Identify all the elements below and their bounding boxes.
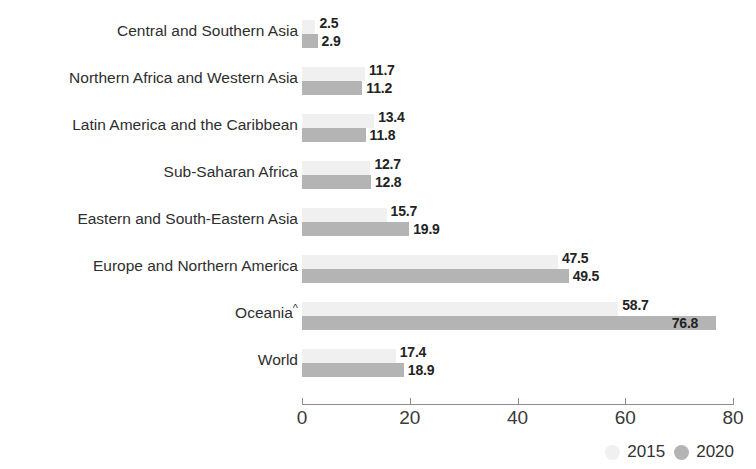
clipped-title-strip xyxy=(0,0,756,8)
value-label-2015: 17.4 xyxy=(400,344,426,360)
bar-2020 xyxy=(302,222,409,236)
x-axis-tick-label: 60 xyxy=(615,407,636,429)
bar-2020 xyxy=(302,128,366,142)
category-label: World xyxy=(8,350,298,369)
category-label: Latin America and the Caribbean xyxy=(8,115,298,134)
value-label-2015: 47.5 xyxy=(562,250,588,266)
chart-row: Eastern and South-Eastern Asia15.719.9 xyxy=(0,202,756,249)
legend-label: 2015 xyxy=(627,442,665,462)
x-axis-tick xyxy=(733,398,734,405)
x-axis-tick-label: 80 xyxy=(722,407,743,429)
bar-2020 xyxy=(302,316,716,330)
bar-2015 xyxy=(302,255,558,269)
bar-2015 xyxy=(302,302,618,316)
x-axis-tick-label: 40 xyxy=(507,407,528,429)
chart-row: Northern Africa and Western Asia11.711.2 xyxy=(0,61,756,108)
legend-item[interactable]: 2020 xyxy=(674,442,734,462)
category-label: Oceania^ xyxy=(8,303,298,322)
category-label: Sub-Saharan Africa xyxy=(8,162,298,181)
value-label-2015: 13.4 xyxy=(378,109,404,125)
value-label-2015: 15.7 xyxy=(391,203,417,219)
x-axis-tick xyxy=(410,398,411,405)
x-axis-tick xyxy=(625,398,626,405)
bar-2015 xyxy=(302,349,396,363)
legend: 20152020 xyxy=(605,440,734,464)
chart-row: Sub-Saharan Africa12.712.8 xyxy=(0,155,756,202)
value-label-2020: 2.9 xyxy=(322,34,341,48)
x-axis-tick xyxy=(518,398,519,405)
value-label-2020: 49.5 xyxy=(573,269,599,283)
category-label: Central and Southern Asia xyxy=(8,21,298,40)
value-label-2015: 12.7 xyxy=(374,156,400,172)
chart-row: Central and Southern Asia2.52.9 xyxy=(0,14,756,61)
legend-swatch-icon xyxy=(674,445,689,460)
bar-2015 xyxy=(302,67,365,81)
value-label-2020: 11.2 xyxy=(366,81,392,95)
value-label-2020: 18.9 xyxy=(408,363,434,377)
bar-2020 xyxy=(302,269,569,283)
footnote-marker: ^ xyxy=(293,302,298,314)
chart-row: Europe and Northern America47.549.5 xyxy=(0,249,756,296)
bar-2020 xyxy=(302,363,404,377)
value-label-2020: 12.8 xyxy=(375,175,401,189)
value-label-2020: 11.8 xyxy=(370,128,396,142)
category-label: Northern Africa and Western Asia xyxy=(8,68,298,87)
legend-swatch-icon xyxy=(605,445,620,460)
x-axis-tick xyxy=(302,398,303,405)
bar-chart: Central and Southern Asia2.52.9Northern … xyxy=(0,0,756,469)
value-label-2020: 76.8 xyxy=(672,316,698,330)
value-label-2015: 2.5 xyxy=(319,15,338,31)
chart-row: Oceania^58.776.8 xyxy=(0,296,756,343)
bar-2015 xyxy=(302,161,370,175)
bar-2015 xyxy=(302,114,374,128)
value-label-2015: 11.7 xyxy=(369,62,395,78)
x-axis-tick-label: 0 xyxy=(297,407,308,429)
bar-2020 xyxy=(302,175,371,189)
bar-2020 xyxy=(302,34,318,48)
bar-2015 xyxy=(302,208,387,222)
plot-area: Central and Southern Asia2.52.9Northern … xyxy=(0,8,756,393)
value-label-2015: 58.7 xyxy=(622,297,648,313)
x-axis-tick-label: 20 xyxy=(399,407,420,429)
value-label-2020: 19.9 xyxy=(413,222,439,236)
chart-row: Latin America and the Caribbean13.411.8 xyxy=(0,108,756,155)
bar-2015 xyxy=(302,20,315,34)
legend-item[interactable]: 2015 xyxy=(605,442,665,462)
category-label: Europe and Northern America xyxy=(8,256,298,275)
category-label: Eastern and South-Eastern Asia xyxy=(8,209,298,228)
bar-2020 xyxy=(302,81,362,95)
x-axis: 020406080 xyxy=(0,398,756,438)
legend-label: 2020 xyxy=(696,442,734,462)
chart-row: World17.418.9 xyxy=(0,343,756,390)
